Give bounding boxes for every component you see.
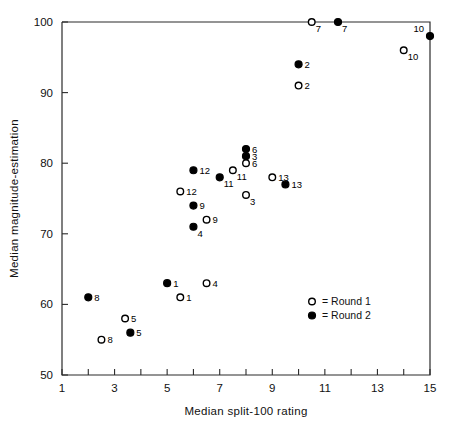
data-point-round-2-2 (295, 61, 302, 68)
data-point-label: 10 (408, 51, 419, 62)
data-point-label: 7 (342, 23, 347, 34)
y-tick-label: 90 (40, 87, 53, 99)
y-tick-label: 60 (40, 298, 53, 310)
data-point-label: 11 (224, 178, 234, 189)
x-tick-label: 9 (269, 382, 275, 394)
data-point-round-2-6 (243, 146, 250, 153)
x-tick-label: 15 (424, 382, 437, 394)
data-point-round-2-9 (190, 202, 197, 209)
data-point-round-1-13 (269, 174, 276, 181)
data-point-label: 9 (213, 214, 218, 225)
data-point-round-1-4 (203, 280, 210, 287)
legend: = Round 1= Round 2 (309, 295, 371, 321)
x-axis-title: Median split-100 rating (184, 405, 307, 417)
axis-tick-labels: 135791113155060708090100 (34, 16, 437, 394)
data-point-label: 3 (250, 196, 255, 207)
x-tick-label: 1 (59, 382, 65, 394)
x-tick-label: 11 (319, 382, 331, 394)
x-tick-label: 3 (111, 382, 117, 394)
legend-marker-filled-circle (309, 312, 316, 319)
data-point-label: 3 (252, 151, 257, 162)
plot-canvas: 135791113155060708090100 710261113123941… (0, 0, 455, 434)
data-point-label: 4 (213, 278, 218, 289)
data-point-label: 1 (186, 292, 191, 303)
data-point-round-2-7 (335, 19, 342, 26)
data-point-label: 8 (107, 334, 112, 345)
data-point-label: 13 (291, 179, 302, 190)
x-tick-label: 5 (164, 382, 170, 394)
y-tick-label: 50 (40, 369, 53, 381)
data-point-round-2-8 (85, 294, 92, 301)
data-point-round-1-2 (295, 82, 302, 89)
legend-label: = Round 1 (322, 295, 371, 307)
data-point-label: 5 (136, 327, 141, 338)
data-point-round-1-1 (177, 294, 184, 301)
data-point-round-1-7 (308, 19, 315, 26)
data-point-label: 2 (305, 80, 310, 91)
data-point-round-1-11 (230, 167, 237, 174)
data-point-round-2-4 (190, 223, 197, 230)
data-point-label: 2 (305, 59, 310, 70)
data-point-round-1-3 (243, 192, 250, 199)
data-point-label: 12 (199, 165, 210, 176)
data-point-label: 7 (316, 23, 321, 34)
legend-marker-open-circle (309, 298, 316, 305)
data-point-label: 12 (186, 186, 197, 197)
data-point-label: 11 (237, 171, 247, 182)
x-tick-label: 13 (371, 382, 384, 394)
legend-label: = Round 2 (322, 309, 371, 321)
data-point-round-1-5 (122, 315, 129, 322)
y-tick-label: 70 (40, 228, 53, 240)
data-point-label: 1 (173, 278, 178, 289)
data-point-round-2-13 (282, 181, 289, 188)
data-point-round-2-5 (127, 329, 134, 336)
x-tick-label: 7 (217, 382, 223, 394)
data-point-label: 4 (197, 228, 202, 239)
data-point-round-1-9 (203, 216, 210, 223)
data-point-round-1-12 (177, 188, 184, 195)
data-point-round-2-10 (427, 33, 434, 40)
y-tick-label: 80 (40, 157, 53, 169)
data-point-round-2-11 (216, 174, 223, 181)
data-points: 7102611131239415871026312111394185 (85, 19, 434, 346)
data-point-label: 9 (199, 200, 204, 211)
data-point-round-1-6 (243, 160, 250, 167)
y-axis-title: Median magnitude-estimation (8, 119, 20, 278)
data-point-round-2-12 (190, 167, 197, 174)
data-point-label: 10 (413, 23, 424, 34)
data-point-label: 5 (131, 313, 136, 324)
data-point-round-2-1 (164, 280, 171, 287)
data-point-round-1-8 (98, 336, 105, 343)
data-point-round-1-10 (400, 47, 407, 54)
data-point-label: 8 (94, 292, 99, 303)
y-tick-label: 100 (34, 16, 53, 28)
scatter-plot-figure: 135791113155060708090100 710261113123941… (0, 0, 455, 434)
data-point-round-2-3 (243, 153, 250, 160)
